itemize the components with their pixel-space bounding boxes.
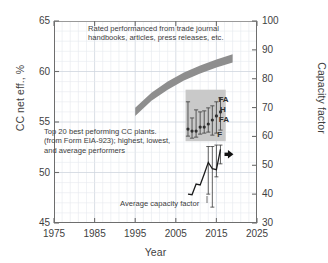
x-axis-title: Year bbox=[53, 246, 258, 258]
x-tick-2005: 2005 bbox=[156, 228, 196, 239]
x-tick-1985: 1985 bbox=[75, 228, 115, 239]
top20-note: Top 20 best peforming CC plants. (from F… bbox=[44, 127, 170, 155]
y-right-tick-30: 30 bbox=[262, 217, 288, 228]
y-right-tick-100: 100 bbox=[262, 15, 288, 26]
average-capacity-factor-note: Average capacity factor bbox=[120, 199, 199, 208]
y-right-tick-60: 60 bbox=[262, 130, 288, 141]
y-left-tick-65: 65 bbox=[24, 15, 50, 26]
y-right-tick-70: 70 bbox=[262, 102, 288, 113]
y-left-tick-50: 50 bbox=[24, 167, 50, 178]
y-axis-left-title: CC net eff., % bbox=[14, 38, 26, 158]
y-right-tick-80: 80 bbox=[262, 73, 288, 84]
inset-label-0: FA bbox=[218, 95, 228, 104]
y-left-tick-45: 45 bbox=[24, 217, 50, 228]
y-right-tick-50: 50 bbox=[262, 159, 288, 170]
y-axis-right-title: Capacity factor bbox=[316, 38, 328, 158]
x-tick-2025: 2025 bbox=[237, 228, 277, 239]
x-tick-2015: 2015 bbox=[196, 228, 236, 239]
y-left-tick-60: 60 bbox=[24, 66, 50, 77]
y-left-tick-55: 55 bbox=[24, 116, 50, 127]
chart-container: CC net eff., % Capacity factor Year 6560… bbox=[0, 0, 328, 263]
inset-label-2: FA bbox=[219, 115, 229, 124]
x-tick-1975: 1975 bbox=[34, 228, 74, 239]
y-right-tick-40: 40 bbox=[262, 188, 288, 199]
inset-label-1: H bbox=[220, 105, 226, 114]
rated-performance-note: Rated performanced from trade journal ha… bbox=[88, 24, 224, 43]
x-tick-1995: 1995 bbox=[115, 228, 155, 239]
inset-label-3: F bbox=[217, 130, 222, 139]
y-right-tick-90: 90 bbox=[262, 44, 288, 55]
